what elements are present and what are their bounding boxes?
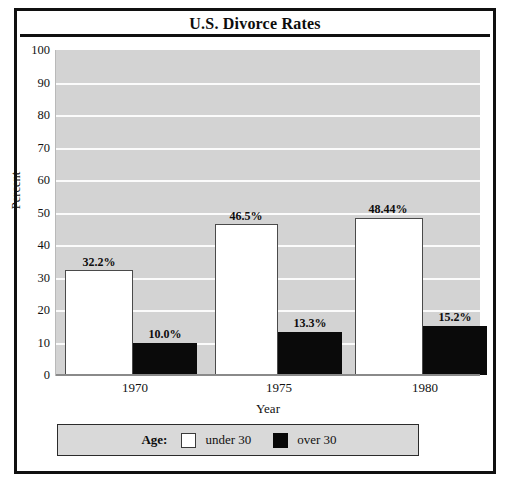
bar-1980-over-30 bbox=[423, 326, 487, 375]
x-tick-1980: 1980 bbox=[385, 380, 465, 396]
y-tick-80: 80 bbox=[6, 108, 50, 123]
legend-title: Age: bbox=[141, 432, 167, 448]
y-tick-20: 20 bbox=[6, 303, 50, 318]
y-tick-90: 90 bbox=[6, 76, 50, 91]
bar-1980-under-30 bbox=[355, 218, 423, 375]
chart-figure: U.S. Divorce Rates 100 90 80 70 60 50 40… bbox=[0, 0, 506, 491]
legend: Age: under 30 over 30 bbox=[57, 424, 419, 456]
x-tick-1970: 1970 bbox=[95, 380, 175, 396]
y-tick-40: 40 bbox=[6, 238, 50, 253]
x-tick-1975: 1975 bbox=[239, 380, 319, 396]
y-tick-0: 0 bbox=[6, 368, 50, 383]
x-axis-label: Year bbox=[56, 401, 480, 417]
gridline bbox=[56, 148, 480, 150]
bar-1970-under-30 bbox=[65, 270, 133, 375]
legend-label-under-30: under 30 bbox=[205, 432, 251, 448]
bar-label-1970-over-30: 10.0% bbox=[125, 327, 205, 342]
bar-label-1970-under-30: 32.2% bbox=[59, 255, 139, 270]
bar-label-1975-over-30: 13.3% bbox=[270, 316, 350, 331]
gridline bbox=[56, 180, 480, 182]
y-tick-100: 100 bbox=[6, 43, 50, 58]
gridline bbox=[56, 115, 480, 117]
legend-content: Age: under 30 over 30 bbox=[58, 425, 420, 455]
bar-1975-over-30 bbox=[278, 332, 342, 375]
y-tick-10: 10 bbox=[6, 336, 50, 351]
legend-swatch-under-30-icon bbox=[181, 433, 196, 448]
gridline bbox=[56, 83, 480, 85]
bar-label-1980-over-30: 15.2% bbox=[415, 310, 495, 325]
title-divider bbox=[20, 34, 490, 37]
x-axis-line bbox=[56, 374, 480, 376]
y-tick-30: 30 bbox=[6, 271, 50, 286]
legend-swatch-over-30-icon bbox=[273, 433, 288, 448]
bar-label-1980-under-30: 48.44% bbox=[348, 202, 428, 217]
y-axis-label: Percent bbox=[9, 151, 24, 231]
legend-label-over-30: over 30 bbox=[297, 432, 336, 448]
bar-1970-over-30 bbox=[133, 343, 197, 376]
y-axis-line bbox=[55, 50, 56, 376]
bar-1975-under-30 bbox=[215, 224, 278, 375]
chart-title: U.S. Divorce Rates bbox=[17, 11, 493, 36]
bar-label-1975-under-30: 46.5% bbox=[206, 209, 286, 224]
